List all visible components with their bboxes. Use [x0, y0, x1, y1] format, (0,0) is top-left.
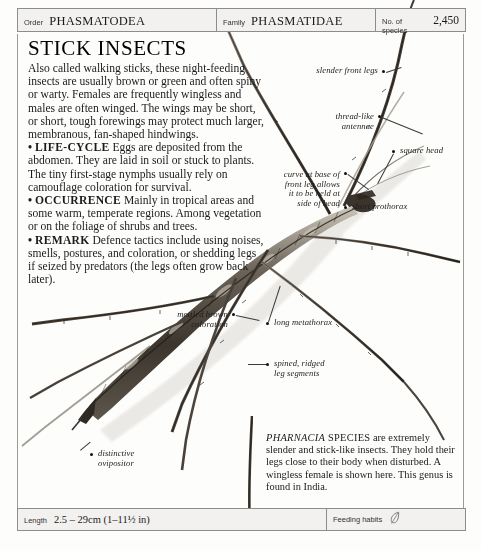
bullet-1: •: [28, 194, 32, 207]
section-life-cycle: • LIFE-CYCLE Eggs are deposited from the…: [28, 141, 264, 194]
feeding-habits-label: Feeding habits: [333, 515, 382, 524]
leader-curve-at-base: [347, 174, 369, 190]
annotation-curve-at-base: curve at base of front leg allows it to …: [264, 170, 340, 208]
order-cell: Order PHASMATODEA: [18, 9, 217, 31]
page-title: STICK INSECTS: [28, 36, 187, 61]
length-label: Length: [24, 509, 47, 525]
caption-species-word: SPECIES: [328, 432, 371, 443]
annotation-thread-like-antennae: thread-like antennae: [312, 112, 374, 131]
section-occurrence: • OCCURRENCE Mainly in tropical areas an…: [28, 194, 264, 234]
family-label: Family: [223, 11, 245, 27]
annotation-dot-spined-ridged: [266, 363, 269, 366]
taxonomy-header-bar: Order PHASMATODEA Family PHASMATIDAE No.…: [17, 8, 466, 32]
encyclopedia-page: Order PHASMATODEA Family PHASMATIDAE No.…: [0, 0, 481, 551]
leader-slender-front-legs: [386, 67, 402, 73]
feeding-habits-cell: Feeding habits: [327, 509, 465, 530]
species-count-value: 2,450: [433, 9, 459, 26]
left-rule: [17, 34, 18, 508]
order-value: PHASMATODEA: [49, 9, 145, 29]
caption-genus: PHARNACIA: [266, 432, 325, 443]
length-value: 2.5 – 29cm (1–11½ in): [54, 509, 150, 525]
annotation-spined-ridged: spined, ridged leg segments: [274, 359, 352, 378]
annotation-short-prothorax: short prothorax: [352, 202, 436, 212]
species-count-label: No. of species: [382, 10, 427, 35]
heading-occurrence: OCCURRENCE: [35, 194, 121, 207]
annotation-dot-ovipositor: [90, 453, 93, 456]
length-cell: Length 2.5 – 29cm (1–11½ in): [18, 509, 327, 530]
heading-life-cycle: LIFE-CYCLE: [35, 141, 110, 154]
order-label: Order: [24, 11, 43, 27]
annotation-square-head: square head: [400, 146, 470, 156]
leader-ovipositor: [80, 442, 91, 451]
bullet-0: •: [28, 141, 32, 154]
genus-caption: PHARNACIA SPECIES are extremely slender …: [266, 432, 458, 493]
annotation-dot-short-prothorax: [344, 206, 347, 209]
annotation-dot-slender-front-legs: [382, 70, 385, 73]
leader-spined-ridged: [248, 364, 266, 365]
species-count-cell: No. of species 2,450: [376, 9, 465, 31]
family-value: PHASMATIDAE: [251, 9, 343, 29]
annotation-mottled-brown: mottled brown coloration: [148, 310, 228, 329]
description-text: Also called walking sticks, these night-…: [28, 62, 264, 286]
intro-paragraph: Also called walking sticks, these night-…: [28, 62, 264, 141]
right-rule: [463, 34, 464, 508]
heading-remark: REMARK: [35, 234, 90, 247]
family-cell: Family PHASMATIDAE: [217, 9, 376, 31]
bullet-2: •: [28, 234, 32, 247]
annotation-distinctive-ovipositor: distinctive ovipositor: [98, 449, 170, 468]
annotation-long-metathorax: long metathorax: [274, 318, 364, 328]
leader-antennae: [382, 117, 423, 134]
leaf-feather-icon: [389, 511, 401, 529]
section-remark: • REMARK Defence tactics include using n…: [28, 234, 264, 287]
leader-square-head: [377, 154, 394, 184]
leader-mottled-brown: [236, 315, 260, 321]
annotation-slender-front-legs: slender front legs: [300, 66, 378, 76]
footer-bar: Length 2.5 – 29cm (1–11½ in) Feeding hab…: [17, 508, 466, 531]
